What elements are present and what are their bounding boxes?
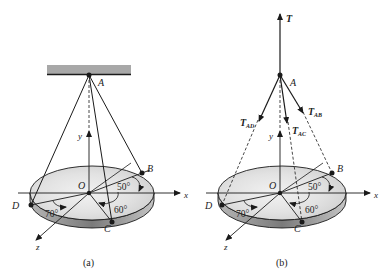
point-O bbox=[87, 191, 91, 195]
point-A bbox=[87, 73, 92, 78]
label-A: A bbox=[97, 77, 105, 88]
label-y: y bbox=[268, 131, 273, 141]
label-C: C bbox=[104, 223, 111, 234]
label-O: O bbox=[269, 180, 276, 191]
angle-label-60: 60° bbox=[305, 205, 319, 215]
angle-label-50: 50° bbox=[308, 182, 322, 192]
label-TAC: TAC bbox=[292, 125, 307, 137]
point-B bbox=[330, 171, 335, 176]
angle-label-70: 70° bbox=[236, 209, 250, 219]
label-A: A bbox=[289, 77, 297, 88]
label-C: C bbox=[294, 223, 301, 234]
caption-a: (a) bbox=[83, 257, 94, 269]
point-D bbox=[29, 203, 34, 208]
label-TAB: TAB bbox=[308, 106, 322, 118]
label-x: x bbox=[373, 190, 378, 200]
label-z: z bbox=[223, 242, 228, 252]
angle-label-70: 70° bbox=[45, 209, 59, 219]
angle-label-60: 60° bbox=[114, 205, 128, 215]
label-B: B bbox=[147, 163, 153, 174]
point-B bbox=[140, 171, 145, 176]
force-TAC-arrow bbox=[280, 75, 287, 123]
caption-b: (b) bbox=[276, 257, 288, 269]
label-D: D bbox=[11, 200, 20, 211]
label-x: x bbox=[183, 190, 188, 200]
figure-a: A y B O x D C z 50° 60° 70° (a) bbox=[11, 65, 188, 269]
force-TAD-arrow bbox=[259, 75, 280, 121]
label-y: y bbox=[77, 131, 82, 141]
label-T: T bbox=[286, 13, 293, 24]
label-O: O bbox=[78, 180, 85, 191]
diagram-canvas: A y B O x D C z 50° 60° 70° (a) bbox=[0, 0, 392, 275]
label-TAD: TAD bbox=[240, 117, 255, 129]
label-B: B bbox=[337, 163, 343, 174]
label-z: z bbox=[35, 242, 40, 252]
point-D bbox=[220, 203, 225, 208]
angle-label-50: 50° bbox=[117, 182, 131, 192]
point-O bbox=[278, 191, 282, 195]
label-D: D bbox=[204, 200, 213, 211]
figure-b: T A TAD TAC TAB y B O x D C z 50° 60° 70… bbox=[204, 13, 378, 269]
point-A bbox=[278, 73, 283, 78]
